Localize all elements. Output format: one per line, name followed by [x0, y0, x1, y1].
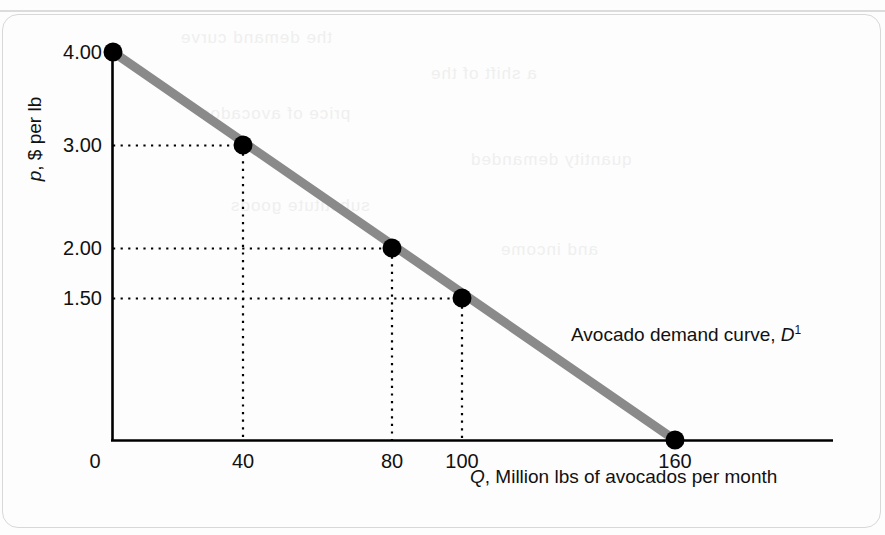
figure-page: the demand curve a shift of the price of…	[0, 0, 885, 535]
x-tick-label-0: 0	[60, 450, 130, 473]
demand-curve-annotation-text: Avocado demand curve,	[571, 324, 781, 345]
demand-curve-annotation: Avocado demand curve, D1	[571, 323, 801, 346]
data-point-4-00	[104, 43, 123, 62]
y-axis-title-rest: , $ per lb	[24, 97, 45, 171]
x-axis-title: Q, Million lbs of avocados per month	[470, 466, 777, 488]
y-axis-title-symbol: p	[24, 171, 45, 182]
x-tick-label-40: 40	[208, 450, 278, 473]
data-point-2-00	[383, 239, 402, 258]
y-tick-label-1-50: 1.50	[32, 287, 102, 310]
y-tick-label-2-00: 2.00	[32, 237, 102, 260]
x-axis-title-rest: , Million lbs of avocados per month	[485, 466, 778, 487]
data-point-3-00	[234, 136, 253, 155]
data-point-0-160	[666, 431, 685, 450]
x-tick-label-80: 80	[357, 450, 427, 473]
demand-curve-annotation-symbol: D	[781, 324, 795, 345]
y-axis-title: p, $ per lb	[24, 59, 46, 219]
data-point-1-50	[453, 289, 472, 308]
x-axis-title-symbol: Q	[470, 466, 485, 487]
demand-curve-annotation-superscript: 1	[795, 323, 802, 337]
